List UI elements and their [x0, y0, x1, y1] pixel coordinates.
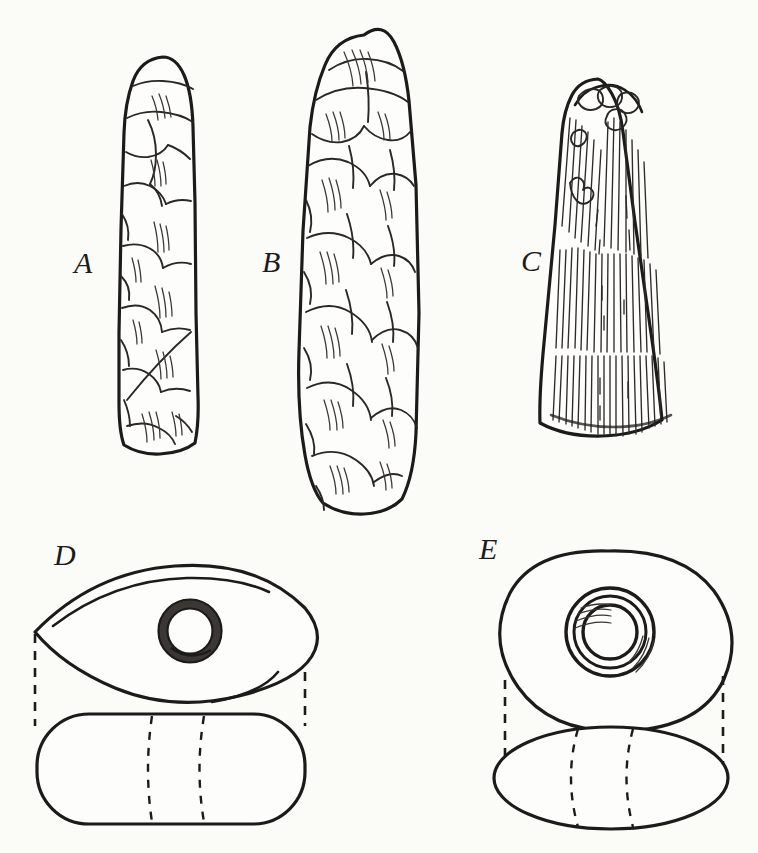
figure-label-d: D [54, 540, 76, 570]
figure-e-side-elevation [494, 727, 728, 829]
figure-d-perforated-stone [35, 565, 317, 824]
figure-b-celt [299, 29, 419, 514]
figure-d-plan-view [35, 565, 317, 702]
figure-label-e: E [479, 534, 497, 564]
figure-label-c: C [521, 246, 541, 276]
plate-artwork: .ol { fill:#fdfdfb; stroke:#1d1b19; stro… [0, 0, 758, 853]
figure-label-a: A [74, 248, 92, 278]
figure-d-side-elevation [37, 714, 305, 824]
figure-e-plan-view [500, 551, 732, 731]
figure-a-celt [119, 57, 198, 454]
illustration-plate: .ol { fill:#fdfdfb; stroke:#1d1b19; stro… [0, 0, 758, 853]
figure-label-b: B [262, 247, 280, 277]
figure-e-perforated-stone [494, 551, 732, 829]
figure-c-celt [540, 79, 671, 436]
